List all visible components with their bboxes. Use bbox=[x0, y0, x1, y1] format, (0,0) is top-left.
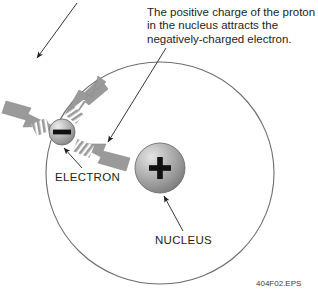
leader-line-nucleus bbox=[164, 196, 183, 231]
label-nucleus: NUCLEUS bbox=[155, 234, 212, 246]
force-arrow-lower-right bbox=[73, 139, 130, 171]
figure-id-label: 404F02.EPS bbox=[256, 279, 301, 288]
leader-line-main-caption bbox=[108, 48, 166, 142]
leader-line-top-caption bbox=[37, 3, 77, 58]
main-caption: The positive charge of the proton in the… bbox=[147, 6, 315, 46]
force-arrow-upper-left bbox=[2, 101, 53, 136]
label-electron: ELECTRON bbox=[55, 171, 120, 183]
nucleus-particle bbox=[135, 143, 185, 193]
electron-particle bbox=[49, 119, 75, 145]
atom-diagram-figure: The positive charge of the proton in the… bbox=[0, 0, 318, 297]
